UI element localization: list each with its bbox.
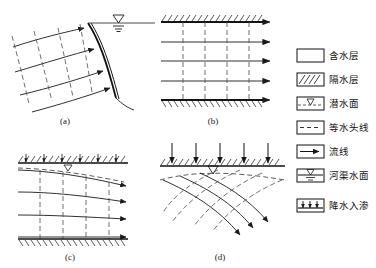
legend-item-river-surface: 河渠水面 [297, 169, 369, 182]
legend-item-equipotential: 等水头线 [297, 121, 369, 134]
panel-b-label: (b) [208, 116, 219, 126]
legend-label-aquifer: 含水层 [329, 50, 359, 61]
legend-symbol-aquifer [297, 49, 324, 62]
legend-label-equipotential: 等水头线 [329, 122, 369, 133]
legend-symbol-infiltration [297, 199, 324, 212]
legend-label-water-table: 潜水面 [329, 98, 359, 109]
groundwater-flow-net-figure: (a) [0, 0, 376, 268]
legend-label-river-surface: 河渠水面 [329, 170, 369, 181]
legend-item-infiltration: 降水入渗 [297, 199, 369, 212]
panel-c-label: (c) [65, 252, 75, 262]
legend-label-flow-line: 流线 [329, 146, 349, 157]
legend-symbol-aquiclude [297, 73, 324, 86]
panel-d-label: (d) [215, 252, 226, 262]
legend-label-infiltration: 降水入渗 [329, 200, 369, 211]
legend-label-aquiclude: 隔水层 [329, 74, 359, 85]
legend-item-flow-line: 流线 [297, 145, 349, 158]
panel-a-label: (a) [60, 116, 70, 126]
